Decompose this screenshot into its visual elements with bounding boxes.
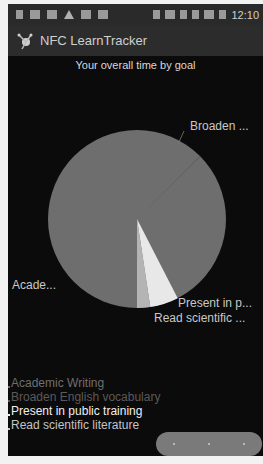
pie-label-academic: Acade... bbox=[12, 278, 56, 292]
legend-label: Present in public training bbox=[11, 404, 142, 418]
dot-icon bbox=[173, 443, 175, 445]
legend-swatch-icon bbox=[8, 428, 10, 430]
legend-label: Academic Writing bbox=[11, 376, 104, 390]
dot-icon bbox=[243, 443, 245, 445]
legend-swatch-icon bbox=[8, 414, 10, 416]
legend-swatch-icon bbox=[8, 386, 10, 388]
pie-label-read: Read scientific ... bbox=[154, 311, 245, 325]
phone-screen: 12:10 NFC LearnTracker Your overall time… bbox=[8, 4, 263, 456]
legend-item: Present in public training bbox=[8, 404, 160, 418]
pie-label-present: Present in p... bbox=[178, 296, 252, 310]
legend-label: Read scientific literature bbox=[11, 418, 139, 432]
legend-item: Read scientific literature bbox=[8, 418, 160, 432]
legend-swatch-icon bbox=[8, 400, 10, 402]
pie-label-broaden: Broaden ... bbox=[190, 119, 249, 133]
dot-icon bbox=[208, 443, 210, 445]
legend-item: Broaden English vocabulary bbox=[8, 390, 160, 404]
overflow-menu-button[interactable] bbox=[156, 432, 262, 456]
legend-item: Academic Writing bbox=[8, 376, 160, 390]
chart-legend: Academic Writing Broaden English vocabul… bbox=[8, 376, 160, 432]
legend-label: Broaden English vocabulary bbox=[11, 390, 160, 404]
